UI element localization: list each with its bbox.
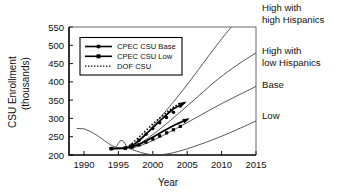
annotation-high-low-hispanics-line1: High with bbox=[262, 45, 301, 56]
csu-enrollment-line-chart: CSU Enrollment (thousands) 550 500 450 4… bbox=[0, 0, 341, 194]
y-tick-label-450: 450 bbox=[48, 58, 64, 69]
annotation-base: Base bbox=[262, 79, 284, 90]
annotation-high-high-hispanics-line2: high Hispanics bbox=[262, 14, 325, 25]
y-tick-label-350: 350 bbox=[48, 95, 64, 106]
y-tick-label-400: 400 bbox=[48, 76, 64, 87]
legend-label-cpec-csu-low: CPEC CSU Low bbox=[117, 52, 173, 61]
x-axis-title: Year bbox=[158, 177, 179, 188]
y-tick-label-200: 200 bbox=[48, 150, 64, 161]
x-tick-label-1990: 1990 bbox=[73, 159, 94, 170]
x-tick-label-2010: 2010 bbox=[211, 159, 232, 170]
chart-figure: CSU Enrollment (thousands) 550 500 450 4… bbox=[0, 0, 341, 194]
legend-label-dof-csu: DOF CSU bbox=[117, 62, 151, 71]
annotation-high-high-hispanics-line1: High with bbox=[262, 2, 301, 13]
x-tick-label-2015: 2015 bbox=[245, 159, 266, 170]
y-tick-label-250: 250 bbox=[48, 131, 64, 142]
chart-legend: CPEC CSU Base CPEC CSU Low DOF CSU bbox=[80, 38, 182, 76]
series-historical bbox=[77, 129, 129, 149]
series-cpec-csu-low-arrowhead bbox=[182, 118, 190, 123]
chart-annotations: High with high Hispanics High with low H… bbox=[262, 2, 325, 121]
legend-marker-square-icon bbox=[97, 54, 101, 58]
x-tick-label-1995: 1995 bbox=[108, 159, 129, 170]
legend-label-cpec-csu-base: CPEC CSU Base bbox=[117, 42, 176, 51]
x-tick-label-2000: 2000 bbox=[142, 159, 163, 170]
y-axis-title-line2: (thousands) bbox=[20, 57, 31, 110]
y-tick-label-300: 300 bbox=[48, 113, 64, 124]
annotation-low: Low bbox=[262, 110, 280, 121]
y-axis-title: CSU Enrollment (thousands) bbox=[7, 56, 31, 128]
y-tick-label-550: 550 bbox=[48, 22, 64, 33]
y-tick-label-500: 500 bbox=[48, 40, 64, 51]
annotation-high-low-hispanics-line2: low Hispanics bbox=[262, 57, 321, 68]
x-tick-labels: 1990 1995 2000 2005 2010 2015 bbox=[73, 159, 266, 170]
y-tick-labels: 550 500 450 400 350 300 250 200 bbox=[48, 22, 64, 161]
series-cpec-csu-low bbox=[111, 120, 187, 149]
y-axis-title-line1: CSU Enrollment bbox=[7, 56, 18, 128]
x-tick-label-2005: 2005 bbox=[177, 159, 198, 170]
series-cpec-csu-low-markers bbox=[110, 125, 182, 150]
legend-marker-circle-icon bbox=[96, 44, 100, 48]
